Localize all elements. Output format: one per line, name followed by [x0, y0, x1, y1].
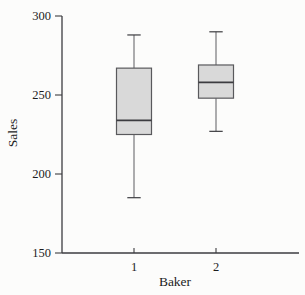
y-axis-title: Sales: [5, 119, 20, 148]
plot-area: 15020025030012: [32, 9, 299, 274]
iqr-box-baker-1: [117, 68, 152, 134]
y-tick-label: 150: [32, 246, 51, 260]
x-category-label: 1: [131, 260, 137, 274]
sales-by-baker-boxplot-chart: 15020025030012 Baker Sales: [0, 0, 305, 295]
x-axis-title: Baker: [159, 274, 192, 289]
y-tick-label: 200: [32, 167, 51, 181]
x-category-label: 2: [213, 260, 219, 274]
y-tick-label: 300: [32, 9, 51, 23]
y-tick-label: 250: [32, 88, 51, 102]
boxplot-figure: 15020025030012 Baker Sales: [0, 0, 305, 295]
